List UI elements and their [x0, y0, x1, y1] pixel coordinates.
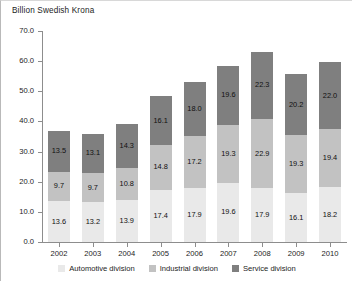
- bar-value-label: 19.3: [217, 149, 239, 158]
- bar-segment[interactable]: 14.8: [150, 145, 172, 190]
- x-axis-label: 2003: [76, 249, 110, 258]
- bar-value-label: 13.6: [48, 217, 70, 226]
- bar-segment[interactable]: 19.6: [217, 183, 239, 242]
- bar-segment[interactable]: 16.1: [285, 193, 307, 242]
- x-axis-tick-mark: [228, 243, 229, 247]
- legend-swatch-icon: [232, 265, 239, 272]
- bar-value-label: 16.1: [150, 116, 172, 125]
- legend-swatch-icon: [149, 265, 156, 272]
- bar-value-label: 18.0: [184, 104, 206, 113]
- bar-value-label: 19.6: [217, 207, 239, 216]
- chart-legend: Automotive divisionIndustrial divisionSe…: [1, 264, 352, 273]
- bar-segment[interactable]: 22.9: [251, 119, 273, 188]
- bar-segment[interactable]: 10.8: [116, 168, 138, 201]
- bar-segment[interactable]: 19.3: [285, 135, 307, 193]
- y-axis-tick-label: 40.0: [1, 116, 34, 125]
- x-axis-label: 2004: [110, 249, 144, 258]
- y-axis-tick-label: 10.0: [1, 207, 34, 216]
- x-axis-label: 2007: [211, 249, 245, 258]
- bar-value-label: 19.6: [217, 90, 239, 99]
- bar-segment[interactable]: 13.1: [82, 134, 104, 173]
- bar-value-label: 19.3: [285, 159, 307, 168]
- bar-segment[interactable]: 14.3: [116, 124, 138, 167]
- legend-item[interactable]: Service division: [232, 264, 296, 273]
- bar-stack[interactable]: 19.619.319.6: [217, 31, 239, 242]
- y-axis-tick-label: 20.0: [1, 177, 34, 186]
- bar-segment[interactable]: 13.6: [48, 201, 70, 242]
- bar-value-label: 13.9: [116, 216, 138, 225]
- bar-value-label: 22.3: [251, 80, 273, 89]
- bar-segment[interactable]: 17.4: [150, 190, 172, 242]
- stacked-bar-chart: Billion Swedish Krona 0.010.020.030.040.…: [0, 0, 352, 281]
- x-axis-tick-mark: [161, 243, 162, 247]
- plot-area: 13.69.713.513.29.713.113.910.814.317.414…: [42, 31, 347, 242]
- bar-value-label: 16.1: [285, 213, 307, 222]
- bar-segment[interactable]: 20.2: [285, 74, 307, 135]
- bar-value-label: 13.1: [82, 148, 104, 157]
- bar-value-label: 17.9: [184, 210, 206, 219]
- bar-segment[interactable]: 9.7: [48, 172, 70, 201]
- x-axis-label: 2005: [144, 249, 178, 258]
- bar-segment[interactable]: 18.2: [319, 187, 341, 242]
- bar-value-label: 9.7: [82, 183, 104, 192]
- bar-segment[interactable]: 13.5: [48, 131, 70, 172]
- legend-item[interactable]: Automotive division: [58, 264, 134, 273]
- bar-value-label: 20.2: [285, 100, 307, 109]
- bar-value-label: 9.7: [48, 181, 70, 190]
- bar-segment[interactable]: 16.1: [150, 96, 172, 145]
- bar-value-label: 13.5: [48, 146, 70, 155]
- bar-value-label: 22.9: [251, 149, 273, 158]
- bar-value-label: 19.4: [319, 153, 341, 162]
- legend-swatch-icon: [58, 265, 65, 272]
- bar-stack[interactable]: 13.910.814.3: [116, 31, 138, 242]
- legend-item[interactable]: Industrial division: [149, 264, 218, 273]
- bar-stack[interactable]: 13.29.713.1: [82, 31, 104, 242]
- bar-value-label: 17.9: [251, 210, 273, 219]
- bar-segment[interactable]: 19.6: [217, 66, 239, 125]
- bar-segment[interactable]: 22.3: [251, 52, 273, 119]
- y-axis-tick-label: 70.0: [1, 26, 34, 35]
- x-axis-label: 2010: [313, 249, 347, 258]
- x-axis-tick-mark: [195, 243, 196, 247]
- bar-segment[interactable]: 13.2: [82, 202, 104, 242]
- bar-segment[interactable]: 17.2: [184, 136, 206, 188]
- x-axis-label: 2008: [245, 249, 279, 258]
- bar-stack[interactable]: 17.414.816.1: [150, 31, 172, 242]
- legend-label: Service division: [243, 264, 296, 273]
- y-axis-tick-label: 50.0: [1, 86, 34, 95]
- x-axis-tick-mark: [93, 243, 94, 247]
- bar-value-label: 22.0: [319, 91, 341, 100]
- bar-stack[interactable]: 13.69.713.5: [48, 31, 70, 242]
- bar-segment[interactable]: 18.0: [184, 82, 206, 136]
- bar-stack[interactable]: 18.219.422.0: [319, 31, 341, 242]
- chart-title: Billion Swedish Krona: [12, 6, 94, 15]
- bar-segment[interactable]: 13.9: [116, 200, 138, 242]
- bar-segment[interactable]: 17.9: [184, 188, 206, 242]
- y-axis-tick-label: 0.0: [1, 237, 34, 246]
- x-axis-label: 2009: [279, 249, 313, 258]
- y-axis-tick-label: 30.0: [1, 147, 34, 156]
- bar-value-label: 13.2: [82, 217, 104, 226]
- bar-value-label: 10.8: [116, 179, 138, 188]
- x-axis-label: 2002: [42, 249, 76, 258]
- bar-value-label: 17.2: [184, 157, 206, 166]
- x-axis-tick-mark: [262, 243, 263, 247]
- bar-segment[interactable]: 22.0: [319, 62, 341, 128]
- bar-value-label: 14.8: [150, 162, 172, 171]
- bar-segment[interactable]: 9.7: [82, 173, 104, 202]
- x-axis-tick-mark: [330, 243, 331, 247]
- bar-value-label: 18.2: [319, 210, 341, 219]
- y-axis-tick-mark: [38, 242, 42, 243]
- bar-stack[interactable]: 17.922.922.3: [251, 31, 273, 242]
- bar-segment[interactable]: 19.4: [319, 129, 341, 187]
- bar-segment[interactable]: 19.3: [217, 125, 239, 183]
- bar-value-label: 14.3: [116, 141, 138, 150]
- legend-label: Industrial division: [160, 264, 218, 273]
- bar-stack[interactable]: 17.917.218.0: [184, 31, 206, 242]
- bar-stack[interactable]: 16.119.320.2: [285, 31, 307, 242]
- y-axis-tick-label: 60.0: [1, 56, 34, 65]
- x-axis-tick-mark: [127, 243, 128, 247]
- bar-value-label: 17.4: [150, 211, 172, 220]
- x-axis-tick-mark: [296, 243, 297, 247]
- bar-segment[interactable]: 17.9: [251, 188, 273, 242]
